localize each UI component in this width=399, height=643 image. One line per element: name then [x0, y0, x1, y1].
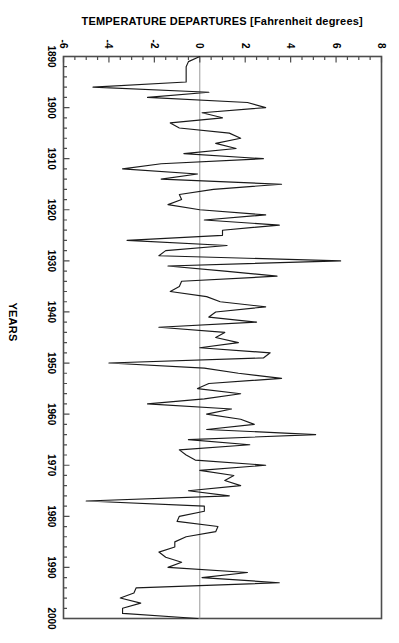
x-tick-label: 1910 — [45, 147, 56, 169]
x-tick-label: 1930 — [45, 249, 56, 271]
x-tick-label: 1990 — [45, 556, 56, 578]
figure-rotation-wrapper: 1890190019101920193019401950196019701980… — [0, 0, 399, 643]
x-tick-label: 1890 — [45, 45, 56, 67]
x-tick-label: 1920 — [45, 198, 56, 220]
plot-border — [63, 56, 381, 618]
x-axis-title: YEARS — [6, 0, 18, 643]
x-tick-label: 1960 — [45, 403, 56, 425]
chart-plot-area — [0, 0, 399, 643]
y-axis-title: TEMPERATURE DEPARTURES [Fahrenheit degre… — [82, 14, 363, 26]
x-tick-label: 2000 — [45, 607, 56, 629]
x-tick-label: 1900 — [45, 96, 56, 118]
x-tick-label: 1940 — [45, 300, 56, 322]
chart-figure: 1890190019101920193019401950196019701980… — [0, 0, 399, 643]
y-tick-label: -6 — [58, 0, 69, 48]
x-tick-label: 1950 — [45, 351, 56, 373]
x-tick-label: 1980 — [45, 505, 56, 527]
y-tick-label: 8 — [376, 0, 387, 48]
x-tick-label: 1970 — [45, 454, 56, 476]
